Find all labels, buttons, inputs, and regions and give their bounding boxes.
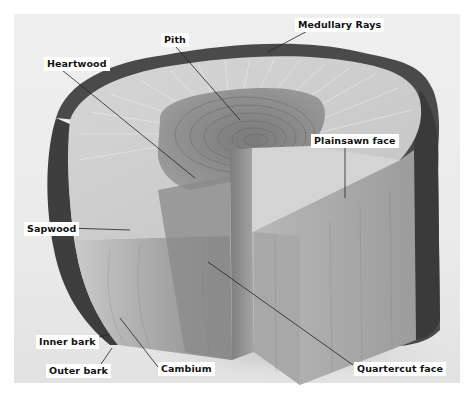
- label-sapwood: Sapwood: [24, 222, 79, 236]
- notch-face: [230, 148, 254, 360]
- label-cambium: Cambium: [158, 362, 215, 376]
- label-heartwood: Heartwood: [44, 57, 110, 71]
- label-medullary-rays: Medullary Rays: [295, 18, 384, 32]
- label-quartercut-face: Quartercut face: [354, 362, 446, 376]
- label-plainsawn-face: Plainsawn face: [311, 134, 399, 148]
- label-pith: Pith: [161, 33, 189, 47]
- label-outer-bark: Outer bark: [46, 364, 111, 378]
- label-inner-bark: Inner bark: [36, 335, 99, 349]
